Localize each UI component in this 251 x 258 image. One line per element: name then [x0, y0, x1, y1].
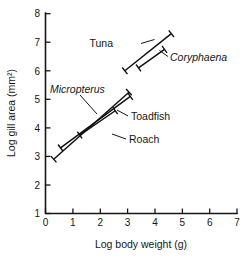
- regression-line: [80, 111, 116, 135]
- x-tick-label-7: 7: [234, 217, 240, 228]
- regression-line: [125, 34, 172, 71]
- endpoint-cap-start: [58, 144, 63, 151]
- x-tick-label-4: 4: [152, 217, 158, 228]
- y-tick-label-7: 7: [34, 37, 40, 48]
- leader-micropterus: [80, 95, 97, 114]
- series-label-toadfish: Toadfish: [131, 110, 170, 122]
- y-tick-label-6: 6: [34, 66, 40, 77]
- leader-toadfish: [117, 110, 128, 116]
- y-tick-label-8: 8: [34, 8, 40, 19]
- regression-line: [61, 96, 131, 147]
- endpoint-cap-start: [136, 65, 141, 72]
- series-label-tuna: Tuna: [89, 37, 113, 49]
- y-axis-tick-labels: 1 2 3 4 5 6 7 8: [34, 8, 40, 219]
- y-tick-label-4: 4: [34, 123, 40, 134]
- x-tick-label-6: 6: [207, 217, 213, 228]
- x-tick-label-3: 3: [125, 217, 131, 228]
- series-label-micropterus: Micropterus: [50, 83, 106, 95]
- regression-line: [139, 49, 165, 68]
- x-axis-tick-labels: 0 1 2 3 4 5 6 7: [43, 217, 241, 228]
- y-axis-title: Log gill area (mm²): [5, 69, 17, 157]
- y-tick-label-1: 1: [34, 208, 40, 219]
- series-label-roach: Roach: [129, 133, 160, 145]
- x-axis-title: Log body weight (g): [95, 238, 187, 250]
- series-toadfish: [58, 93, 133, 151]
- leader-tuna: [141, 40, 155, 44]
- x-tick-label-1: 1: [70, 217, 76, 228]
- series-label-coryphaena: Coryphaena: [170, 51, 227, 63]
- endpoint-cap-end: [162, 46, 167, 53]
- x-tick-label-2: 2: [98, 217, 104, 228]
- x-tick-label-0: 0: [43, 217, 49, 228]
- y-tick-label-3: 3: [34, 151, 40, 162]
- leader-roach: [112, 134, 126, 139]
- x-tick-label-5: 5: [180, 217, 186, 228]
- y-tick-label-2: 2: [34, 180, 40, 191]
- chart-svg: 1 2 3 4 5 6 7 8 0 1 2 3 4 5: [0, 0, 251, 258]
- gill-area-scaling-chart: 1 2 3 4 5 6 7 8 0 1 2 3 4 5: [0, 0, 251, 258]
- y-tick-label-5: 5: [34, 94, 40, 105]
